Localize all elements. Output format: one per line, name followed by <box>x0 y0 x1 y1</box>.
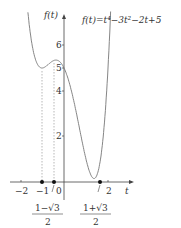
point-minus1 <box>40 180 44 184</box>
x-tick-minus2: −2 <box>15 186 28 196</box>
frac1-denominator: 2 <box>45 217 51 227</box>
y-tick-6: 6 <box>56 40 62 50</box>
x-tick-2: 2 <box>106 186 112 196</box>
frac2-denominator: 2 <box>93 217 99 227</box>
frac2-numerator: 1+√3 <box>83 203 108 213</box>
function-curve <box>28 12 111 179</box>
x-axis-label: t <box>125 186 129 196</box>
y-axis-label: f(t) <box>43 10 58 20</box>
point-global-min-t <box>98 180 102 184</box>
y-tick-2: 2 <box>56 131 62 141</box>
x-axis-arrow-icon <box>129 180 134 184</box>
function-plot: −2 −1 0 2 t 6 5 4 2 f(t) f(t)=t⁴−3t²−2t+… <box>0 0 181 228</box>
y-tick-4: 4 <box>56 86 62 96</box>
x-tick-minus1: −1 <box>36 186 49 196</box>
y-tick-5: 5 <box>56 63 62 73</box>
point-local-max-t <box>52 180 56 184</box>
frac1-numerator: 1−√3 <box>35 203 60 213</box>
x-tick-0: 0 <box>56 186 62 196</box>
chart-container: −2 −1 0 2 t 6 5 4 2 f(t) f(t)=t⁴−3t²−2t+… <box>0 0 181 228</box>
y-axis-arrow-icon <box>62 14 66 19</box>
formula-label: f(t)=t⁴−3t²−2t+5 <box>81 15 162 25</box>
